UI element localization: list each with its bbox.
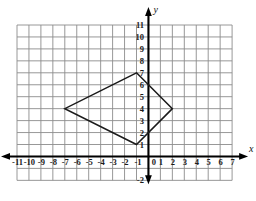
graph-figure: -11-10-9-8-7-6-5-4-3-2-10123456711109876…	[0, 0, 256, 201]
tick-label: 6	[219, 157, 223, 167]
tick-label: 5	[207, 157, 211, 167]
coordinate-plane-svg: -11-10-9-8-7-6-5-4-3-2-10123456711109876…	[0, 0, 256, 201]
tick-label: 2	[140, 128, 144, 138]
tick-label: 9	[140, 44, 144, 54]
tick-label: 2	[171, 157, 175, 167]
tick-label: -3	[110, 157, 117, 167]
tick-label: 3	[140, 116, 144, 126]
tick-label: 7	[140, 68, 145, 78]
tick-label: 8	[140, 56, 144, 66]
tick-label: -2	[122, 157, 129, 167]
tick-label: 7	[230, 157, 235, 167]
tick-label: 4	[140, 104, 145, 114]
x-axis-label: x	[248, 143, 254, 154]
tick-label: -5	[86, 157, 93, 167]
tick-labels: -11-10-9-8-7-6-5-4-3-2-10123456711109876…	[12, 20, 235, 185]
tick-label: -9	[38, 157, 45, 167]
tick-label: -2	[137, 175, 144, 185]
tick-label: 1	[159, 157, 163, 167]
tick-label: -6	[74, 157, 81, 167]
tick-label: 4	[195, 157, 200, 167]
tick-label: -7	[62, 157, 70, 167]
tick-label: -11	[12, 157, 23, 167]
tick-label: 6	[140, 80, 144, 90]
tick-label: 11	[136, 20, 144, 30]
tick-label: -1	[134, 157, 141, 167]
tick-label: 3	[183, 157, 187, 167]
tick-label: -8	[50, 157, 57, 167]
tick-label: 1	[140, 140, 144, 150]
y-axis-label: y	[152, 4, 158, 15]
tick-label: 5	[140, 92, 144, 102]
tick-label: -4	[98, 157, 106, 167]
tick-label: 10	[135, 32, 144, 42]
tick-label: 0	[152, 157, 156, 167]
tick-label: -10	[24, 157, 35, 167]
